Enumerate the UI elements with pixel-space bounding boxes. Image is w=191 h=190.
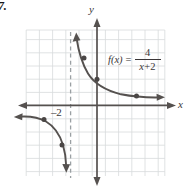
y-axis-label: y [89,4,94,15]
coordinate-plane-graph [0,0,191,190]
axes [18,18,176,186]
y-axis-arrow-down [94,177,101,186]
plot-point [42,117,47,122]
plot-point [60,143,65,148]
x-axis-arrow-left [18,102,27,109]
equation-denominator-constant: 2 [150,61,155,72]
plot-point [82,56,87,61]
equation-fraction: 4 x+2 [135,47,161,72]
equation-lhs: f(x) [108,54,123,65]
x-axis-arrow-right [167,102,176,109]
function-equation-annotation: f(x) = 4 x+2 [108,47,161,72]
equation-equals-sign: = [126,54,132,65]
curve-arrow-left [14,113,23,120]
plot-point [134,94,139,99]
equation-numerator: 4 [142,47,153,58]
figure-container: 7. [0,0,191,190]
y-axis-arrow-up [94,18,101,27]
equation-fraction-bar [135,59,161,60]
x-axis-label: x [178,99,183,110]
x-tick-label-negative-2: –2 [51,106,62,118]
equation-denominator: x+2 [138,61,156,72]
curve-arrow-right [157,94,166,101]
plot-point [95,77,100,82]
